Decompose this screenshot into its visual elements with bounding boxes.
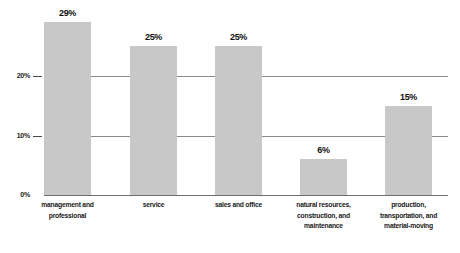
bar-production-transportation-and-material-moving <box>385 106 432 195</box>
category-label-service: service <box>113 200 195 211</box>
ytick-mark-20 <box>33 76 42 77</box>
plot-area: 20% 10% 0% 29% 25% 25% 6% 15% management… <box>0 0 460 253</box>
bar-value-label-3: 25% <box>215 32 262 42</box>
ytick-mark-10 <box>33 136 42 137</box>
bar-service <box>130 46 177 195</box>
ytick-label-0-wrap: 0% <box>0 190 30 200</box>
bar-value-label-2: 25% <box>130 32 177 42</box>
bar-sales-and-office <box>215 46 262 195</box>
bar-value-label-4: 6% <box>300 145 347 155</box>
ytick-label-0: 0% <box>7 190 30 199</box>
category-label-management-and-professional: management and professional <box>27 200 109 221</box>
bar-management-and-professional <box>44 22 91 195</box>
bar-value-label-1: 29% <box>44 8 91 18</box>
bar-value-label-5: 15% <box>385 92 432 102</box>
category-label-sales-and-office: sales and office <box>198 200 280 211</box>
bar-natural-resources-construction-and-maintenance <box>300 159 347 195</box>
bar-chart: 20% 10% 0% 29% 25% 25% 6% 15% management… <box>0 0 460 253</box>
axis-baseline <box>44 195 448 196</box>
category-label-natural-resources-construction-and-maintenance: natural resources, construction, and mai… <box>283 200 365 232</box>
ytick-label-10: 10% <box>7 131 30 140</box>
ytick-label-20-wrap: 20% <box>0 71 30 81</box>
ytick-label-10-wrap: 10% <box>0 131 30 141</box>
category-label-production-transportation-and-material-moving: production, transportation, and material… <box>368 200 450 232</box>
ytick-label-20: 20% <box>7 71 30 80</box>
